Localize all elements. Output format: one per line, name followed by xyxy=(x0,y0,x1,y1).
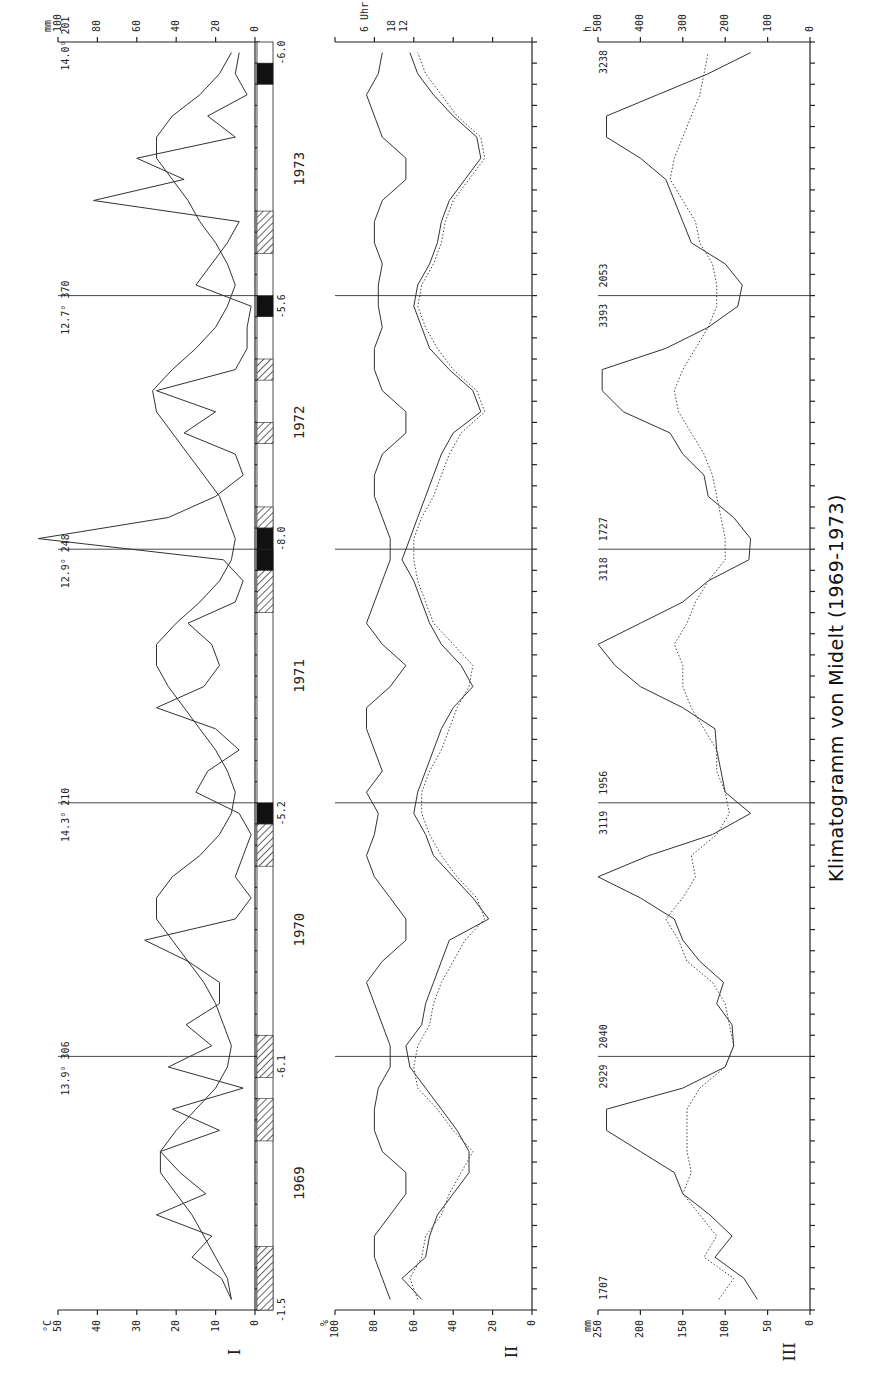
frost-observed-bar xyxy=(257,803,273,824)
annual-temp-precip-label: 14.3° 210 xyxy=(60,788,71,842)
min-temp-label: -5.2 xyxy=(276,801,287,825)
left-axis-tick-label: 0 xyxy=(804,1320,815,1326)
min-temp-label: -1.5 xyxy=(276,1298,287,1322)
series-line-6-uhr xyxy=(367,53,406,1300)
left-axis-tick-label: 40 xyxy=(91,1320,102,1332)
left-axis-tick-label: 50 xyxy=(762,1320,773,1332)
series-line-evaporation-mm- xyxy=(598,53,757,1300)
annual-sunshine-label: 2040 xyxy=(598,1024,609,1048)
annual-evaporation-label: 1707 xyxy=(598,1276,609,1300)
left-axis-tick-label: 80 xyxy=(368,1320,379,1332)
right-axis-tick-label: 100 xyxy=(762,14,773,32)
right-axis-tick-label: 500 xyxy=(592,14,603,32)
frost-observed-bar xyxy=(257,549,273,570)
annual-sunshine-label: 2053 xyxy=(598,264,609,288)
series-line-18-uhr xyxy=(402,53,489,1300)
year-label: 1969 xyxy=(291,1166,307,1200)
right-axis-tick-label: 40 xyxy=(170,20,181,32)
min-temp-label: -8.0 xyxy=(276,527,287,551)
right-series-label: 12 xyxy=(398,20,409,32)
left-axis-tick-label: 40 xyxy=(447,1320,458,1332)
annual-temp-precip-label: 14.0° 201 xyxy=(60,16,71,70)
frost-possible-bar xyxy=(257,824,273,866)
left-axis-tick-label: 0 xyxy=(249,1320,260,1326)
annual-temp-precip-label: 12.7° 370 xyxy=(60,281,71,335)
frost-observed-bar xyxy=(257,528,273,549)
series-line-sunshine-h- xyxy=(666,53,734,1300)
series-line-precipitation-mm- xyxy=(38,53,251,1300)
left-axis-tick-label: 20 xyxy=(487,1320,498,1332)
annual-temp-precip-label: 13.9° 306 xyxy=(60,1041,71,1095)
year-label: 1973 xyxy=(291,152,307,186)
right-series-label: 18 xyxy=(386,20,397,32)
frost-possible-bar xyxy=(257,422,273,443)
panel-3: 050100150200250mm0100200300400500hIII xyxy=(582,14,815,1362)
panel-2: 020406080100%6 Uhr1812II xyxy=(319,2,537,1358)
panel-1: 01020304050°C020406080100mmI xyxy=(42,14,260,1355)
min-temp-label: -5.6 xyxy=(276,294,287,318)
left-axis-unit: °C xyxy=(42,1320,53,1332)
left-axis-tick-label: 30 xyxy=(131,1320,142,1332)
frost-observed-bar xyxy=(257,63,273,84)
left-axis-tick-label: 0 xyxy=(526,1320,537,1326)
frost-observed-bar xyxy=(257,296,273,317)
panel-label: II xyxy=(502,1346,521,1359)
annual-evaporation-label: 3119 xyxy=(598,811,609,835)
right-axis-tick-label: 400 xyxy=(634,14,645,32)
frost-possible-bar xyxy=(257,1099,273,1141)
climate-chart: 01020304050°C020406080100mmI020406080100… xyxy=(0,0,881,1377)
left-axis-tick-label: 10 xyxy=(210,1320,221,1332)
series-line-mean-temperature-c- xyxy=(153,53,236,1300)
right-axis-tick-label: 300 xyxy=(677,14,688,32)
right-axis-tick-label: 60 xyxy=(131,20,142,32)
right-axis-tick-label: 80 xyxy=(91,20,102,32)
left-axis-tick-label: 100 xyxy=(719,1320,730,1338)
frost-possible-bar xyxy=(257,1247,273,1310)
right-axis-unit: mm xyxy=(42,20,53,32)
right-axis-tick-label: 200 xyxy=(719,14,730,32)
left-axis-unit: mm xyxy=(582,1320,593,1332)
annual-evaporation-label: 3118 xyxy=(598,557,609,581)
year-label: 1972 xyxy=(291,406,307,440)
left-axis-tick-label: 200 xyxy=(634,1320,645,1338)
annual-evaporation-label: 2929 xyxy=(598,1064,609,1088)
right-axis-tick-label: 20 xyxy=(210,20,221,32)
left-axis-tick-label: 60 xyxy=(408,1320,419,1332)
annual-evaporation-label: 3238 xyxy=(598,50,609,74)
frost-possible-bar xyxy=(257,507,273,528)
left-axis-tick-label: 20 xyxy=(170,1320,181,1332)
min-temp-label: -6.1 xyxy=(276,1055,287,1079)
left-axis-unit: % xyxy=(319,1320,330,1326)
annual-evaporation-label: 3393 xyxy=(598,304,609,328)
min-temp-label: -6.0 xyxy=(276,41,287,65)
right-series-label: 6 Uhr xyxy=(359,2,370,32)
chart-title: Klimatogramm von Midelt (1969-1973) xyxy=(825,494,847,882)
chart-title-text: Klimatogramm von Midelt (1969-1973) xyxy=(825,494,847,882)
year-label: 1971 xyxy=(291,659,307,693)
panel-label: I xyxy=(225,1349,244,1355)
left-axis-tick-label: 50 xyxy=(52,1320,63,1332)
series-line-12-uhr xyxy=(410,53,485,1300)
annual-temp-precip-label: 12.9° 248 xyxy=(60,534,71,588)
left-axis-tick-label: 150 xyxy=(677,1320,688,1338)
right-axis-tick-label: 0 xyxy=(804,26,815,32)
chart-svg: 01020304050°C020406080100mmI020406080100… xyxy=(0,0,881,1377)
panel-label: III xyxy=(780,1343,799,1362)
frost-possible-bar xyxy=(257,359,273,380)
annual-sunshine-label: 1956 xyxy=(598,771,609,795)
annual-sunshine-label: 1727 xyxy=(598,517,609,541)
left-axis-tick-label: 100 xyxy=(329,1320,340,1338)
year-label: 1970 xyxy=(291,913,307,947)
frost-possible-bar xyxy=(257,211,273,253)
right-axis-unit: h xyxy=(582,26,593,32)
left-axis-tick-label: 250 xyxy=(592,1320,603,1338)
frost-possible-bar xyxy=(257,1035,273,1077)
right-axis-tick-label: 0 xyxy=(249,26,260,32)
